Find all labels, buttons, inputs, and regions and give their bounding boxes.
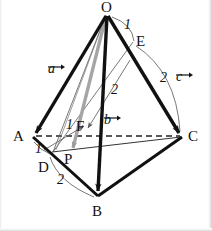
vector-b-label: b <box>104 107 122 127</box>
label-D: D <box>38 160 49 175</box>
vector-b-arrow-icon <box>104 107 122 113</box>
page-edge-bottom <box>0 228 212 231</box>
label-P: P <box>64 152 72 167</box>
ratio-OF: 2 <box>111 83 118 97</box>
vector-a-arrow-icon <box>48 56 66 62</box>
label-E: E <box>136 34 145 49</box>
label-C: C <box>188 129 198 144</box>
ratio-DB: 2 <box>57 173 64 187</box>
figure-canvas: O A B C D E F P 1 2 1 2 2 1 a b <box>0 0 212 231</box>
arc-EC <box>136 46 180 131</box>
vector-c-arrow-icon <box>176 64 194 70</box>
ratio-AD: 1 <box>35 142 42 156</box>
page-edge-left <box>0 0 2 231</box>
label-O: O <box>101 0 112 15</box>
ratio-EC: 2 <box>160 71 167 85</box>
ratio-FD: 1 <box>66 118 73 132</box>
label-A: A <box>13 129 24 144</box>
label-F: F <box>76 119 84 134</box>
ratio-OE: 1 <box>124 18 131 32</box>
vector-c-label: c <box>176 64 194 84</box>
page-edge-right <box>208 0 212 231</box>
edge-BC <box>98 137 182 196</box>
vector-a-label: a <box>48 56 66 76</box>
label-B: B <box>92 204 102 219</box>
